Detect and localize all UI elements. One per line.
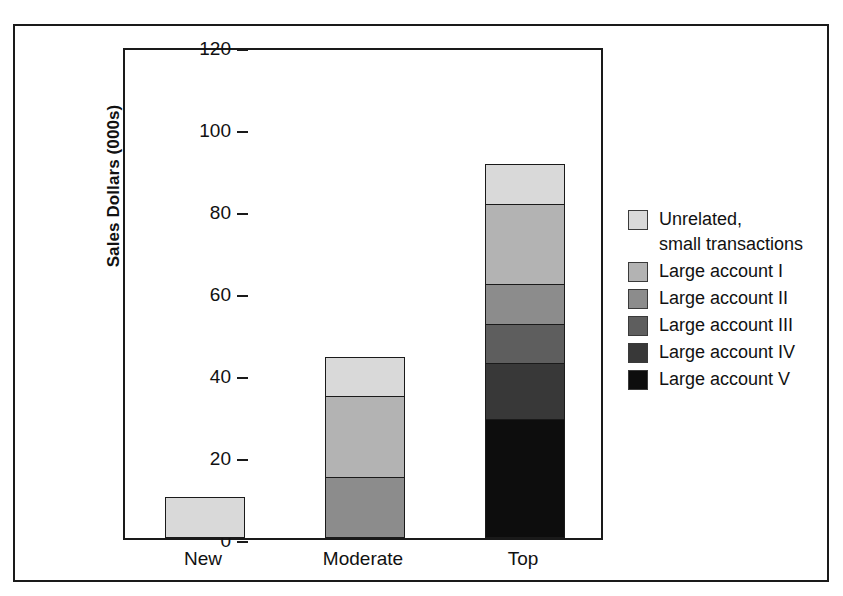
- chart-legend: Unrelated, small transactionsLarge accou…: [628, 207, 838, 394]
- legend-item-label: Large account III: [659, 313, 793, 338]
- legend-item-label: Large account I: [659, 259, 783, 284]
- bar-segment[interactable]: [485, 419, 565, 538]
- bar-segment[interactable]: [485, 204, 565, 286]
- x-axis-label: Moderate: [283, 548, 443, 570]
- y-axis-tick-mark: [237, 459, 248, 461]
- legend-swatch-icon: [628, 343, 648, 363]
- bar-segment[interactable]: [325, 477, 405, 539]
- legend-swatch-icon: [628, 316, 648, 336]
- legend-item[interactable]: Large account IV: [628, 340, 838, 365]
- bar-segment[interactable]: [325, 396, 405, 478]
- bar-segment[interactable]: [485, 284, 565, 325]
- legend-item[interactable]: Large account II: [628, 286, 838, 311]
- legend-item-label: Large account IV: [659, 340, 795, 365]
- y-axis-tick-mark: [237, 377, 248, 379]
- y-axis-tick-mark: [237, 131, 248, 133]
- chart-figure: Sales Dollars (000s) 020406080100120 New…: [0, 0, 843, 596]
- bar-top[interactable]: [485, 164, 565, 538]
- legend-swatch-icon: [628, 289, 648, 309]
- legend-item[interactable]: Large account I: [628, 259, 838, 284]
- y-axis-tick-mark: [237, 213, 248, 215]
- bar-moderate[interactable]: [325, 357, 405, 539]
- y-axis-tick-label: 100: [199, 120, 231, 142]
- bar-segment[interactable]: [325, 357, 405, 398]
- y-axis-tick-label: 60: [210, 284, 231, 306]
- bar-segment[interactable]: [165, 497, 245, 538]
- y-axis-tick-label: 20: [210, 448, 231, 470]
- plot-area: 020406080100120: [123, 48, 603, 540]
- bar-new[interactable]: [165, 497, 245, 538]
- y-axis-tick-mark: [237, 541, 248, 543]
- bar-segment[interactable]: [485, 363, 565, 420]
- bar-segment[interactable]: [485, 164, 565, 205]
- legend-item-label: Unrelated, small transactions: [659, 207, 803, 257]
- legend-item[interactable]: Unrelated, small transactions: [628, 207, 838, 257]
- y-axis-tick-label: 120: [199, 38, 231, 60]
- y-axis-tick-label: 40: [210, 366, 231, 388]
- y-axis-tick-mark: [237, 49, 248, 51]
- y-axis-title: Sales Dollars (000s): [104, 66, 124, 306]
- legend-swatch-icon: [628, 262, 648, 282]
- legend-swatch-icon: [628, 210, 648, 230]
- y-axis-tick-mark: [237, 295, 248, 297]
- legend-item[interactable]: Large account III: [628, 313, 838, 338]
- legend-swatch-icon: [628, 370, 648, 390]
- x-axis-label: New: [123, 548, 283, 570]
- legend-item[interactable]: Large account V: [628, 367, 838, 392]
- bar-segment[interactable]: [485, 324, 565, 365]
- legend-item-label: Large account V: [659, 367, 790, 392]
- x-axis-label: Top: [443, 548, 603, 570]
- legend-item-label: Large account II: [659, 286, 788, 311]
- y-axis-tick-label: 80: [210, 202, 231, 224]
